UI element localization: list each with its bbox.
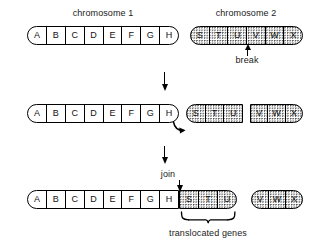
gene-box-a: A: [28, 105, 46, 122]
gene-box-u: U: [223, 105, 242, 122]
gene-box-x: X: [283, 27, 302, 44]
gene-box-v: V: [251, 105, 267, 122]
gene-box-d: D: [84, 191, 103, 208]
gene-box-t: T: [198, 191, 217, 208]
gene-box-g: G: [140, 191, 159, 208]
gene-box-w: W: [267, 105, 284, 122]
gene-box-s: S: [191, 27, 209, 44]
fragment-stu-row2: S T U: [186, 104, 243, 123]
gene-box-h: H: [159, 27, 178, 44]
gene-box-g: G: [140, 27, 159, 44]
gene-box-d: D: [84, 105, 103, 122]
gene-box-h: H: [159, 191, 178, 208]
gene-box-x: X: [285, 105, 302, 122]
gene-box-u: U: [227, 27, 246, 44]
gene-box-w: W: [265, 27, 284, 44]
gene-box-a: A: [28, 191, 46, 208]
translocation-diagram: chromosome 1 A B C D E F G H chromosome …: [0, 0, 315, 246]
gene-box-t: T: [205, 105, 224, 122]
translocated-genes-brace: [182, 212, 235, 223]
rejoin-curved-arrow-icon: [174, 122, 186, 134]
gene-box-c: C: [65, 105, 84, 122]
chromosome-2-row1: S T U V W X: [190, 26, 303, 45]
gene-box-d: D: [84, 27, 103, 44]
gene-box-g: G: [140, 105, 159, 122]
gene-box-b: B: [46, 27, 65, 44]
gene-box-b: B: [46, 191, 65, 208]
gene-box-t: T: [209, 27, 228, 44]
chromosome-1-row2: A B C D E F G H: [27, 104, 179, 123]
break-arrow-head-icon: [245, 44, 251, 50]
gene-box-v: V: [252, 191, 268, 208]
translocated-chromosome-host-row3: A B C D E F G H: [27, 190, 179, 209]
join-label: join: [161, 169, 175, 179]
gene-box-e: E: [103, 191, 122, 208]
gene-box-f: F: [121, 105, 140, 122]
gene-box-x: X: [285, 191, 302, 208]
gene-box-c: C: [65, 191, 84, 208]
chromosome-1-row1: A B C D E F G H: [27, 26, 179, 45]
gene-box-f: F: [121, 27, 140, 44]
gene-box-u: U: [217, 191, 236, 208]
fragment-vwx-row3: V W X: [251, 190, 303, 209]
gene-box-f: F: [121, 191, 140, 208]
fragment-vwx-row2: V W X: [250, 104, 303, 123]
step-arrow-2-head-icon: [162, 157, 168, 164]
translocated-genes-caption: translocated genes: [169, 228, 247, 238]
gene-box-c: C: [65, 27, 84, 44]
gene-box-b: B: [46, 105, 65, 122]
gene-box-w: W: [268, 191, 285, 208]
gene-box-h: H: [159, 105, 178, 122]
gene-box-v: V: [246, 27, 265, 44]
gene-box-a: A: [28, 27, 46, 44]
gene-box-s: S: [180, 191, 198, 208]
break-label: break: [235, 55, 258, 65]
gene-box-e: E: [103, 105, 122, 122]
gene-box-s: S: [187, 105, 205, 122]
step-arrow-1-head-icon: [162, 84, 168, 91]
chromosome-2-title-row1: chromosome 2: [216, 8, 277, 18]
gene-box-e: E: [103, 27, 122, 44]
chromosome-1-title-row1: chromosome 1: [73, 8, 134, 18]
translocated-segment-stu-row3: S T U: [179, 190, 237, 209]
